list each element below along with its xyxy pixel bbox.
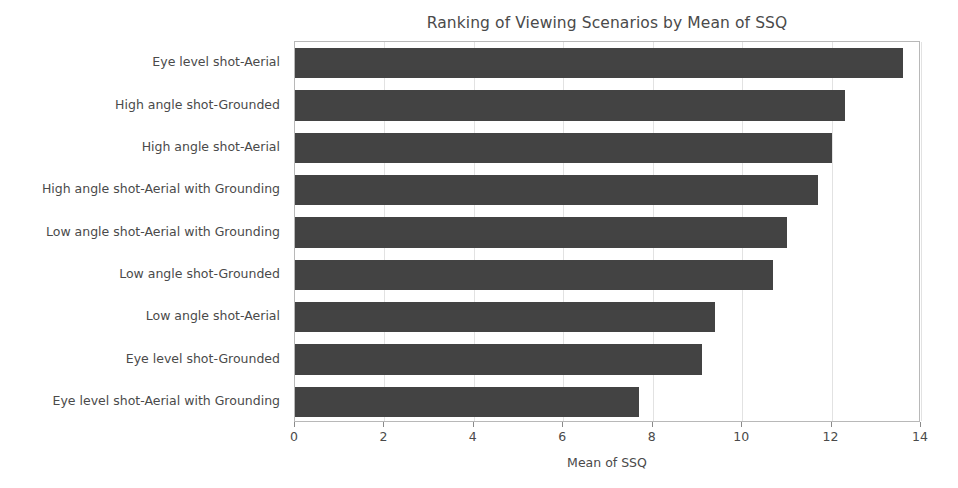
bar bbox=[295, 387, 639, 417]
bar-row bbox=[295, 133, 919, 163]
y-axis-tick-label: High angle shot-Aerial with Grounding bbox=[42, 182, 280, 196]
x-axis-tick-label: 10 bbox=[733, 429, 749, 444]
x-axis-tick-label: 14 bbox=[912, 429, 928, 444]
y-axis-tick-label: Low angle shot-Aerial with Grounding bbox=[46, 225, 280, 239]
bar-row bbox=[295, 175, 919, 205]
bar-row bbox=[295, 302, 919, 332]
y-axis-tick-label: Eye level shot-Aerial with Grounding bbox=[53, 394, 280, 408]
y-axis-tick-label: Eye level shot-Aerial bbox=[152, 55, 280, 69]
x-axis-tick-label: 2 bbox=[379, 429, 387, 444]
y-axis-tick-label: High angle shot-Grounded bbox=[115, 98, 280, 112]
x-axis-tick-label: 0 bbox=[290, 429, 298, 444]
bar-row bbox=[295, 344, 919, 374]
x-axis-tick-mark bbox=[652, 422, 653, 427]
x-axis-tick-mark bbox=[383, 422, 384, 427]
bar-row bbox=[295, 387, 919, 417]
bar bbox=[295, 133, 832, 163]
x-axis-tick-mark bbox=[741, 422, 742, 427]
x-axis-tick-mark bbox=[562, 422, 563, 427]
bar-row bbox=[295, 48, 919, 78]
x-axis-tick-mark bbox=[473, 422, 474, 427]
y-axis-tick-label: High angle shot-Aerial bbox=[142, 140, 280, 154]
y-axis-tick-label: Low angle shot-Aerial bbox=[146, 309, 280, 323]
x-axis-tick-label: 12 bbox=[823, 429, 839, 444]
bar bbox=[295, 302, 715, 332]
bar-series bbox=[295, 42, 919, 421]
bar bbox=[295, 344, 702, 374]
bar bbox=[295, 260, 773, 290]
y-axis-tick-label: Eye level shot-Grounded bbox=[126, 352, 280, 366]
bar-row bbox=[295, 217, 919, 247]
y-axis-tick-label: Low angle shot-Grounded bbox=[119, 267, 280, 281]
x-axis-ticks: 02468101214 bbox=[294, 422, 920, 430]
gridline bbox=[921, 42, 922, 421]
plot-area bbox=[294, 41, 920, 422]
x-axis-tick-label: 8 bbox=[648, 429, 656, 444]
chart-title: Ranking of Viewing Scenarios by Mean of … bbox=[294, 14, 920, 32]
y-axis-labels: Eye level shot-AerialHigh angle shot-Gro… bbox=[0, 41, 288, 422]
bar-row bbox=[295, 90, 919, 120]
bar bbox=[295, 90, 845, 120]
x-axis-tick-mark bbox=[920, 422, 921, 427]
x-axis-tick-label: 6 bbox=[558, 429, 566, 444]
x-axis-title: Mean of SSQ bbox=[294, 455, 920, 470]
bar bbox=[295, 175, 818, 205]
x-axis-tick-mark bbox=[831, 422, 832, 427]
bar bbox=[295, 217, 787, 247]
chart-figure: Ranking of Viewing Scenarios by Mean of … bbox=[0, 0, 958, 488]
bar bbox=[295, 48, 903, 78]
bar-row bbox=[295, 260, 919, 290]
x-axis-tick-label: 4 bbox=[469, 429, 477, 444]
x-axis-tick-mark bbox=[294, 422, 295, 427]
